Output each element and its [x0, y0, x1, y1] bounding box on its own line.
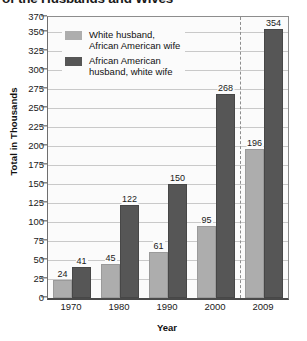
x-tick-label: 1980	[108, 301, 129, 312]
bar	[197, 226, 216, 298]
y-tick-label: 175	[14, 159, 44, 170]
bar-value-label: 150	[169, 173, 186, 183]
x-tick-label: 2009	[252, 301, 273, 312]
gridline	[48, 108, 288, 109]
legend-swatch-light	[65, 31, 82, 40]
bar-value-label: 61	[152, 241, 164, 251]
bar	[168, 184, 187, 298]
bar	[216, 94, 235, 298]
plot-area: 2441451226115095268196354 White husband,…	[47, 16, 289, 300]
bar	[149, 252, 168, 298]
bar	[53, 280, 72, 298]
legend-swatch-dark	[65, 57, 82, 66]
period-divider-line	[240, 17, 241, 298]
bar-value-label: 196	[246, 138, 263, 148]
chart-legend: White husband, African American wife Afr…	[62, 26, 185, 80]
y-tick-label: 200	[14, 140, 44, 151]
chart-title: of the Husbands and Wives	[0, 0, 307, 7]
gridline	[48, 89, 288, 90]
y-tick-label: 25	[14, 273, 44, 284]
y-tick-label: 0	[14, 292, 44, 303]
y-tick-label: 370	[14, 11, 44, 22]
legend-item-african-american-husband: African American husband, white wife	[65, 55, 180, 77]
y-tick-label: 125	[14, 197, 44, 208]
y-tick-label: 250	[14, 102, 44, 113]
y-tick-label: 350	[14, 26, 44, 37]
bar-value-label: 24	[56, 269, 68, 279]
y-tick-label: 275	[14, 83, 44, 94]
x-tick-label: 1970	[60, 301, 81, 312]
x-axis-label: Year	[47, 322, 287, 333]
y-tick-label: 225	[14, 121, 44, 132]
bar	[120, 205, 139, 298]
bar	[101, 264, 120, 298]
y-tick-label: 300	[14, 64, 44, 75]
bar	[72, 267, 91, 298]
y-tick-label: 50	[14, 254, 44, 265]
y-tick-label: 325	[14, 45, 44, 56]
bar-value-label: 45	[104, 253, 116, 263]
bar	[264, 29, 283, 298]
x-tick-label: 1990	[156, 301, 177, 312]
legend-label-light: White husband, African American wife	[89, 29, 180, 51]
bar-value-label: 268	[217, 83, 234, 93]
bar-value-label: 95	[200, 215, 212, 225]
x-tick-label: 2000	[204, 301, 225, 312]
bar-value-label: 41	[75, 256, 87, 266]
legend-label-dark: African American husband, white wife	[89, 55, 172, 77]
y-tick-label: 150	[14, 178, 44, 189]
bar-value-label: 354	[265, 18, 282, 28]
y-tick-label: 100	[14, 216, 44, 227]
y-tick-label: 75	[14, 235, 44, 246]
bar	[245, 149, 264, 298]
legend-item-white-husband: White husband, African American wife	[65, 29, 180, 51]
gridline	[48, 127, 288, 128]
bar-value-label: 122	[121, 194, 138, 204]
bar-chart-figure: of the Husbands and Wives Total in Thous…	[0, 0, 307, 341]
